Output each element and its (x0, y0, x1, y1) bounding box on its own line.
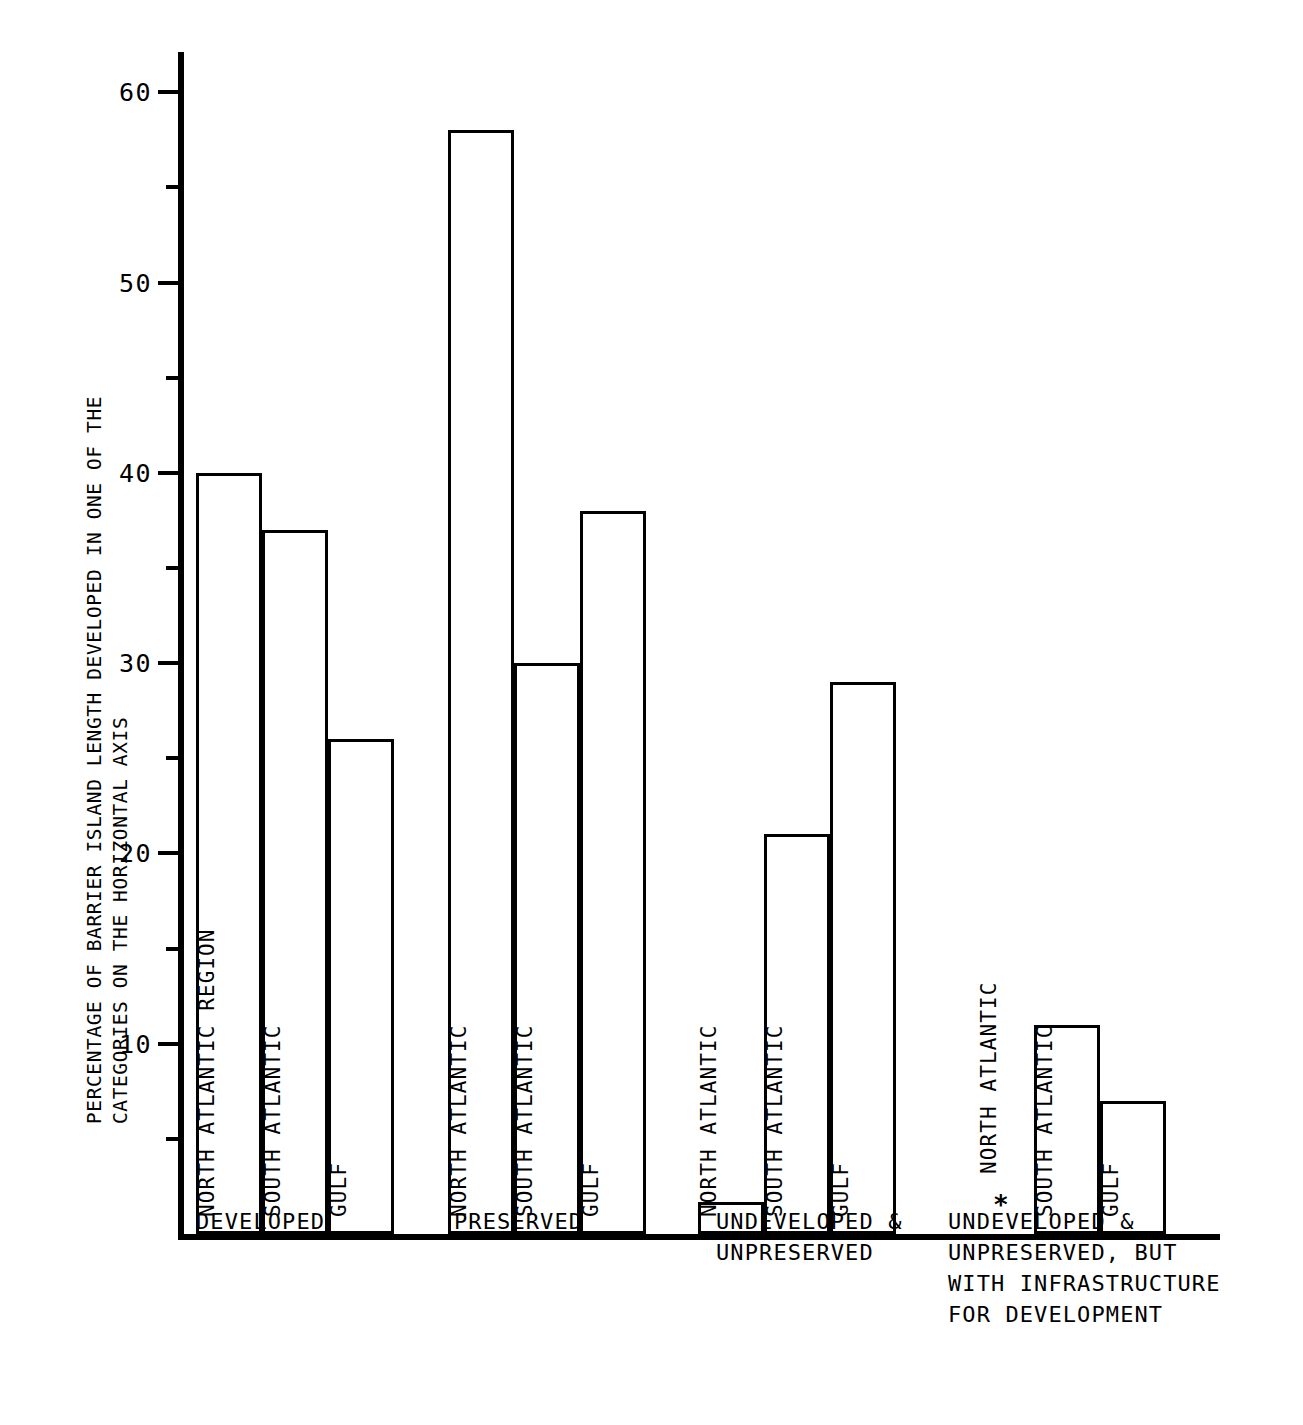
bar: SOUTH ATLANTIC (1034, 1025, 1100, 1234)
bar: GULF (328, 739, 394, 1234)
y-tick-minor (166, 376, 178, 380)
bar-label: NORTH ATLANTIC (977, 982, 1001, 1174)
y-tick-label: 60 (119, 78, 152, 107)
bar: SOUTH ATLANTIC (262, 530, 328, 1234)
bar-label: NORTH ATLANTIC (697, 1025, 721, 1217)
bar-label: SOUTH ATLANTIC (1033, 1025, 1057, 1217)
y-tick-minor (166, 1137, 178, 1141)
y-tick-minor (166, 566, 178, 570)
bar-label: NORTH ATLANTIC (447, 1025, 471, 1217)
bar: GULF (830, 682, 896, 1234)
bar-label: SOUTH ATLANTIC (261, 1025, 285, 1217)
bar-label: SOUTH ATLANTIC (763, 1025, 787, 1217)
y-tick-label: 50 (119, 268, 152, 297)
plot-area: 102030405060 NORTH ATLANTIC REGIONSOUTH … (178, 52, 1220, 1240)
y-tick-major (158, 1042, 178, 1046)
y-tick-minor (166, 185, 178, 189)
y-tick-label: 10 (119, 1029, 152, 1058)
y-tick-minor (166, 756, 178, 760)
bar-label: SOUTH ATLANTIC (513, 1025, 537, 1217)
bar-label: NORTH ATLANTIC REGION (195, 928, 219, 1217)
y-tick-minor (166, 947, 178, 951)
group-label: UNDEVELOPED & UNPRESERVED (716, 1206, 903, 1268)
y-tick-label: 20 (119, 839, 152, 868)
y-tick-label: 30 (119, 649, 152, 678)
bar: NORTH ATLANTIC REGION (196, 473, 262, 1234)
group-label: DEVELOPED (196, 1206, 325, 1237)
bar: SOUTH ATLANTIC (514, 663, 580, 1234)
bar-label: GULF (327, 1162, 351, 1217)
y-axis-line (178, 52, 184, 1240)
y-tick-label: 40 (119, 458, 152, 487)
bar: NORTH ATLANTIC (448, 130, 514, 1234)
chart-canvas: PERCENTAGE OF BARRIER ISLAND LENGTH DEVE… (0, 0, 1303, 1425)
bar: GULF (580, 511, 646, 1234)
group-label: UNDEVELOPED & UNPRESERVED, BUT WITH INFR… (948, 1206, 1221, 1330)
y-axis-title-line-1: PERCENTAGE OF BARRIER ISLAND LENGTH DEVE… (82, 124, 108, 1124)
y-tick-major (158, 851, 178, 855)
y-tick-major (158, 661, 178, 665)
group-label: PRESERVED (454, 1206, 583, 1237)
bar: SOUTH ATLANTIC (764, 834, 830, 1234)
y-tick-major (158, 281, 178, 285)
y-tick-major (158, 90, 178, 94)
y-tick-major (158, 471, 178, 475)
